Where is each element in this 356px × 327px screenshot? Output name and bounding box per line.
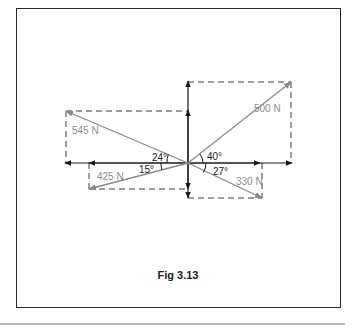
figure-caption: Fig 3.13 [0, 269, 356, 281]
label-425n: 425 N [97, 171, 124, 182]
force-500n [188, 82, 291, 163]
label-330n: 330 N [236, 176, 263, 187]
angle-label-27: 27° [213, 166, 228, 177]
page-divider [0, 323, 345, 325]
label-545n: 545 N [72, 125, 99, 136]
angle-label-40: 40° [207, 151, 222, 162]
angle-label-15: 15° [139, 164, 154, 175]
angle-label-24: 24° [152, 152, 167, 163]
label-500n: 500 N [254, 103, 281, 114]
force-545n [66, 111, 188, 163]
